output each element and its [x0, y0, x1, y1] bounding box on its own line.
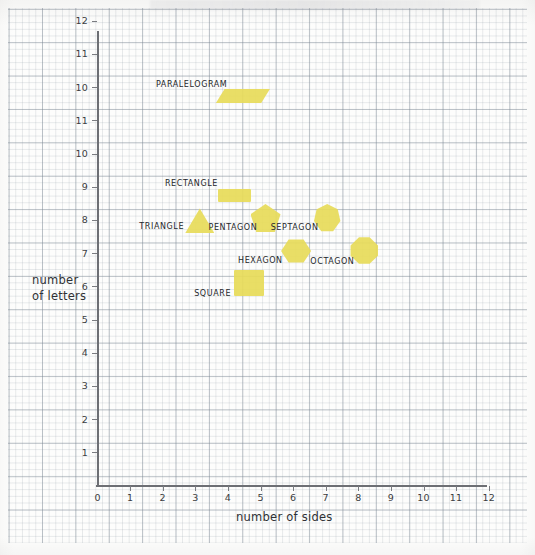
octagon-marker-icon	[350, 237, 378, 264]
y-tick-mark	[92, 386, 97, 387]
parallelogram-marker-icon	[216, 89, 270, 103]
x-tick-label: 10	[414, 492, 434, 503]
x-tick-mark	[163, 486, 164, 491]
y-tick-mark	[92, 286, 97, 287]
x-tick-label: 8	[348, 492, 368, 503]
y-tick-mark	[92, 419, 97, 420]
scatter-plot: 1211101110987654321 0123456789101112 PAR…	[0, 0, 535, 555]
y-tick-label: 1	[66, 447, 88, 458]
y-tick-label: 8	[66, 214, 88, 225]
y-axis-title: number of letters	[32, 272, 86, 304]
y-tick-label: 7	[66, 248, 88, 259]
y-tick-label: 4	[66, 347, 88, 358]
y-tick-label: 5	[66, 314, 88, 325]
x-tick-label: 9	[381, 492, 401, 503]
x-tick-mark	[391, 486, 392, 491]
data-point-label: HEXAGON	[238, 256, 283, 265]
y-tick-mark	[92, 154, 97, 155]
y-tick-mark	[92, 120, 97, 121]
x-tick-mark	[293, 486, 294, 491]
y-tick-mark	[92, 54, 97, 55]
x-tick-label: 1	[120, 492, 140, 503]
x-tick-label: 6	[283, 492, 303, 503]
y-tick-mark	[92, 353, 97, 354]
x-tick-mark	[228, 486, 229, 491]
data-point-label: PARALELOGRAM	[156, 80, 227, 89]
y-tick-label: 12	[66, 15, 88, 26]
y-tick-label: 10	[66, 82, 88, 93]
y-axis-title-line2: of letters	[32, 288, 86, 304]
x-tick-mark	[326, 486, 327, 491]
x-tick-label: 7	[316, 492, 336, 503]
data-point-label: PENTAGON	[209, 223, 258, 232]
data-point-label: SQUARE	[194, 289, 231, 298]
x-tick-label: 0	[88, 492, 108, 503]
y-tick-mark	[92, 452, 97, 453]
y-tick-mark	[92, 320, 97, 321]
x-axis-line	[96, 485, 487, 487]
y-tick-mark	[92, 21, 97, 22]
hexagon-marker-icon	[281, 239, 311, 263]
x-tick-mark	[261, 486, 262, 491]
y-tick-mark	[92, 87, 97, 88]
x-tick-mark	[358, 486, 359, 491]
rect-marker-icon	[218, 189, 251, 202]
y-tick-label: 11	[66, 115, 88, 126]
data-point-label: RECTANGLE	[165, 179, 218, 188]
y-tick-label: 10	[66, 148, 88, 159]
x-tick-label: 5	[251, 492, 271, 503]
y-tick-label: 3	[66, 380, 88, 391]
x-tick-mark	[195, 486, 196, 491]
y-tick-label: 9	[66, 181, 88, 192]
data-point-label: SEPTAGON	[271, 223, 319, 232]
x-tick-label: 3	[185, 492, 205, 503]
x-tick-mark	[489, 486, 490, 491]
x-tick-mark	[456, 486, 457, 491]
x-tick-mark	[130, 486, 131, 491]
x-tick-label: 4	[218, 492, 238, 503]
y-tick-mark	[92, 253, 97, 254]
x-tick-label: 11	[446, 492, 466, 503]
x-tick-label: 2	[153, 492, 173, 503]
y-tick-mark	[92, 220, 97, 221]
y-tick-mark	[92, 187, 97, 188]
y-axis-line	[97, 31, 99, 487]
square-marker-icon	[234, 270, 264, 296]
y-tick-label: 11	[66, 48, 88, 59]
x-tick-mark	[424, 486, 425, 491]
data-point-label: OCTAGON	[310, 257, 354, 266]
x-axis-title: number of sides	[236, 510, 333, 524]
data-point-label: TRIANGLE	[139, 222, 184, 231]
x-tick-label: 12	[479, 492, 499, 503]
y-axis-title-line1: number	[32, 272, 86, 288]
y-tick-label: 2	[66, 414, 88, 425]
